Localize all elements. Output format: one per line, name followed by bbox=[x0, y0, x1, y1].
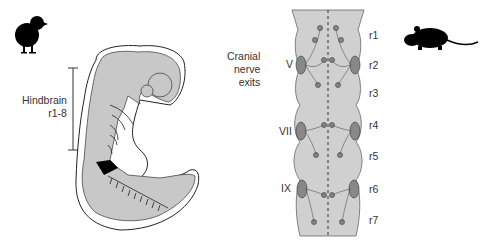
mouse-silhouette-icon bbox=[404, 26, 478, 50]
hindbrain-label-text: Hindbrain bbox=[22, 94, 67, 107]
nerve-label-IX: IX bbox=[281, 182, 291, 195]
cranial-nerve-label: Cranial nerve exits bbox=[227, 50, 260, 89]
nerve-text: nerve bbox=[227, 63, 260, 76]
rhombomere-r6: r6 bbox=[369, 183, 378, 196]
rhombomere-r5: r5 bbox=[369, 150, 378, 163]
nerve-label-V: V bbox=[286, 58, 293, 71]
cranial-text: Cranial bbox=[227, 50, 260, 63]
hindbrain-label: Hindbrain r1-8 bbox=[22, 94, 67, 120]
rhombomere-r1: r1 bbox=[369, 29, 378, 42]
embryo-neural-tube bbox=[82, 51, 195, 220]
figure-canvas bbox=[0, 0, 493, 246]
hindbrain-bracket bbox=[68, 68, 78, 150]
rhombomere-r7: r7 bbox=[369, 214, 378, 227]
exits-text: exits bbox=[227, 76, 260, 89]
nerve-label-VII: VII bbox=[279, 125, 292, 138]
hindbrain-range-text: r1-8 bbox=[22, 107, 67, 120]
rhombomere-r3: r3 bbox=[369, 87, 378, 100]
rhombomere-r2: r2 bbox=[369, 59, 378, 72]
chick-silhouette-icon bbox=[15, 16, 48, 54]
hindbrain-flatmount bbox=[292, 10, 364, 236]
rhombomere-r4: r4 bbox=[369, 119, 378, 132]
